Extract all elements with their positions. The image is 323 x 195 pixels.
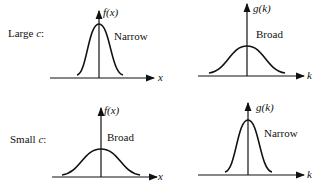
panel-fx-narrow bbox=[50, 11, 154, 78]
row-label-text: Small bbox=[10, 133, 38, 145]
width-label: Broad bbox=[107, 131, 134, 143]
panel-gk-broad bbox=[198, 4, 304, 76]
fn-label: f(x) bbox=[103, 6, 118, 18]
panel-fx-broad bbox=[52, 108, 157, 177]
panel-gk-narrow bbox=[198, 103, 304, 175]
width-label: Narrow bbox=[264, 127, 298, 139]
row-label-small-c: Small c: bbox=[10, 133, 46, 145]
row-label-colon: : bbox=[43, 133, 46, 145]
axis-label: x bbox=[158, 71, 163, 83]
axis-label: x bbox=[158, 170, 163, 182]
fn-label: g(k) bbox=[253, 2, 271, 14]
row-label-large-c: Large c: bbox=[8, 27, 44, 39]
row-label-colon: : bbox=[41, 27, 44, 39]
width-label: Narrow bbox=[114, 30, 148, 42]
row-label-text: Large bbox=[8, 27, 36, 39]
fn-label: g(k) bbox=[256, 101, 274, 113]
axis-label: k bbox=[307, 168, 312, 180]
width-label: Broad bbox=[256, 28, 283, 40]
axis-label: k bbox=[307, 69, 312, 81]
fn-label: f(x) bbox=[104, 104, 119, 116]
